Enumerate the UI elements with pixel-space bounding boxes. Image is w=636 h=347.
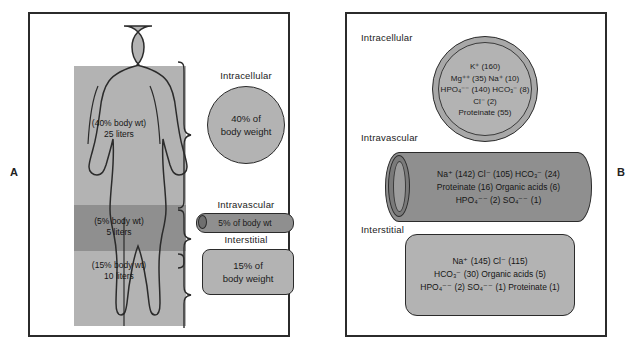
panel-b-label-intravascular: Intravascular — [361, 132, 418, 143]
panel-a-interstitial-text: 15% of body weight — [203, 260, 293, 285]
panel-b-interstitial-ions: Na⁺ (145) Cl⁻ (115) HCO₃⁻ (30) Organic a… — [406, 255, 574, 294]
panel-a-label-intravascular: Intravascular — [198, 199, 294, 210]
panel-a-interstitial-rect: 15% of body weight — [202, 249, 294, 295]
panel-a: (40% body wt) 25 liters (5% body wt) 5 l… — [28, 12, 290, 337]
panel-b-intravascular-ions: Na⁺ (142) Cl⁻ (105) HCO₃⁻ (24) Proteinat… — [410, 168, 587, 207]
panel-a-intracellular-line2: body weight — [221, 126, 272, 137]
panel-b-label-interstitial: Interstitial — [361, 224, 404, 235]
panel-a-intracellular-line1: 40% of — [231, 113, 261, 124]
ion-line: HPO₄⁻⁻ (2) SO₄⁻⁻ (1) — [456, 195, 542, 205]
panel-b-cylinder-lumen — [393, 161, 406, 212]
ion-line: K⁺ (160) — [470, 62, 500, 71]
body-intracellular-note: (40% body wt) — [92, 118, 146, 128]
panel-b-interstitial-rect: Na⁺ (145) Cl⁻ (115) HCO₃⁻ (30) Organic a… — [405, 234, 575, 316]
body-intravascular-volume: 5 liters — [106, 227, 131, 237]
ion-line: HPO₄⁻⁻ (2) SO₄⁻⁻ (1) Proteinate (1) — [420, 282, 559, 292]
panel-a-label-interstitial: Interstitial — [202, 234, 290, 245]
panel-a-interstitial-line1: 15% of — [233, 260, 263, 271]
body-label-intracellular: (40% body wt) 25 liters — [54, 118, 184, 140]
ion-line: Proteinate (16) Organic acids (6) — [437, 182, 560, 192]
body-label-interstitial: (15% body wt) 10 liters — [54, 260, 184, 282]
body-intravascular-note: (5% body wt) — [94, 216, 144, 226]
panel-a-intravascular-text: 5% of body wt — [197, 217, 293, 229]
ion-line: HPO₄⁻⁻ (140) HCO₃⁻ (8) — [441, 85, 530, 94]
panel-a-label-intracellular: Intracellular — [202, 70, 290, 81]
panel-b-cylinder-cap — [388, 155, 410, 217]
ion-line: Proteinate (55) — [459, 108, 512, 117]
panel-a-intracellular-text: 40% of body weight — [208, 113, 284, 138]
body-intracellular-volume: 25 liters — [104, 129, 134, 139]
ion-line: Na⁺ (145) Cl⁻ (115) — [452, 256, 527, 266]
body-interstitial-volume: 10 liters — [104, 271, 134, 281]
ion-line: Na⁺ (142) Cl⁻ (105) HCO₃⁻ (24) — [437, 169, 560, 179]
panel-b-intracellular-ions: K⁺ (160) Mg⁺⁺ (35) Na⁺ (10) HPO₄⁻⁻ (140)… — [433, 61, 537, 119]
brace-group — [176, 28, 202, 328]
panel-b: Intracellular K⁺ (160) Mg⁺⁺ (35) Na⁺ (10… — [345, 12, 607, 337]
body-interstitial-note: (15% body wt) — [92, 260, 146, 270]
panel-b-label-intracellular: Intracellular — [361, 32, 413, 43]
body-label-intravascular: (5% body wt) 5 liters — [54, 216, 184, 238]
panel-a-intracellular-circle: 40% of body weight — [207, 86, 285, 164]
panel-b-letter: B — [617, 166, 625, 178]
panel-a-letter: A — [10, 166, 18, 178]
panel-b-intravascular-cylinder: Na⁺ (142) Cl⁻ (105) HCO₃⁻ (24) Proteinat… — [385, 152, 592, 222]
fluid-compartments-figure: A — [0, 0, 636, 347]
panel-a-interstitial-line2: body weight — [223, 273, 274, 284]
ion-line: Cl⁻ (2) — [473, 97, 497, 106]
ion-line: Mg⁺⁺ (35) Na⁺ (10) — [451, 74, 519, 83]
panel-b-intracellular-circle: K⁺ (160) Mg⁺⁺ (35) Na⁺ (10) HPO₄⁻⁻ (140)… — [432, 36, 538, 142]
ion-line: HCO₃⁻ (30) Organic acids (5) — [434, 269, 546, 279]
panel-a-intravascular-cylinder: 5% of body wt — [196, 213, 294, 233]
